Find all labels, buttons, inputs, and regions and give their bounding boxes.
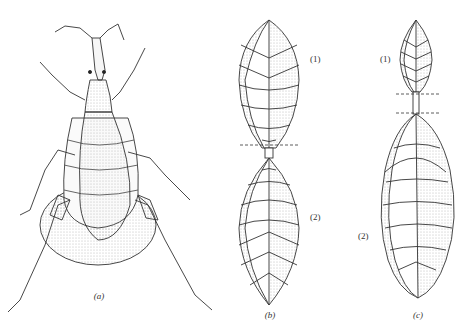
label-b-2: (2) — [310, 212, 321, 222]
label-b: (b) — [265, 310, 276, 320]
abdomen-b-drawing — [239, 20, 299, 305]
label-c-2: (2) — [358, 231, 369, 241]
figure-drawing: (a) (1) (2) (b) — [0, 0, 470, 326]
label-c-1: (1) — [380, 54, 391, 64]
label-a: (a) — [94, 291, 105, 301]
label-c: (c) — [413, 310, 423, 320]
label-b-1: (1) — [310, 54, 321, 64]
insect-drawing — [8, 24, 212, 312]
abdomen-c-drawing — [381, 20, 454, 298]
figure: (a) (1) (2) (b) — [0, 0, 470, 326]
